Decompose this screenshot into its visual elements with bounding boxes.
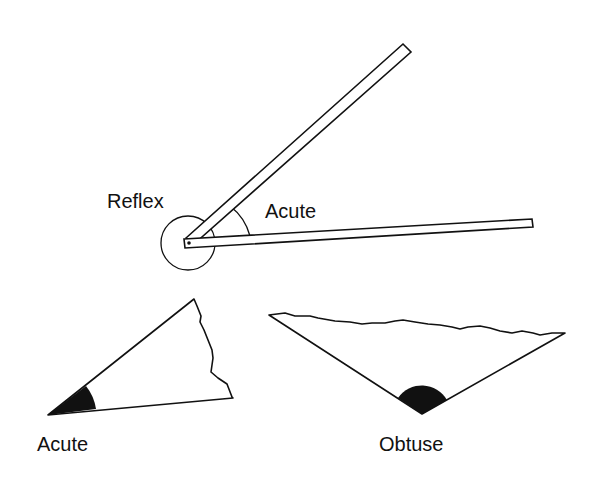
pivot-pin: [187, 241, 191, 245]
label-reflex: Reflex: [107, 191, 164, 211]
label-acute-bottom: Acute: [37, 434, 88, 454]
label-acute-top: Acute: [265, 201, 316, 221]
angle-diagram: [0, 0, 605, 487]
ruler-arm-lower: [184, 219, 533, 248]
label-obtuse: Obtuse: [379, 434, 443, 454]
